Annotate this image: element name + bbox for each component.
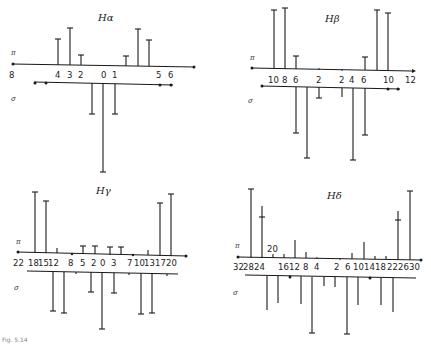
sigma-label: σ — [233, 289, 238, 297]
svg-text:8: 8 — [68, 258, 73, 268]
svg-text:1: 1 — [112, 70, 117, 80]
svg-text:0: 0 — [101, 70, 106, 80]
svg-text:3: 3 — [111, 258, 116, 268]
svg-text:4: 4 — [349, 75, 354, 85]
sigma-label: σ — [11, 95, 16, 103]
sigma-sticks — [50, 272, 167, 329]
svg-text:20: 20 — [166, 258, 177, 268]
svg-text:2: 2 — [316, 75, 321, 85]
sigma-label: σ — [14, 284, 19, 292]
panel-h-delta: Hδ π σ 32 28 24 20 16 12 8 — [233, 189, 423, 334]
zeeman-figure: .ln { stroke:#1a1a1a; stroke-width:1.1; … — [0, 0, 431, 350]
svg-text:3: 3 — [67, 70, 72, 80]
svg-text:6: 6 — [293, 75, 298, 85]
svg-text:7: 7 — [127, 258, 132, 268]
svg-text:22: 22 — [13, 258, 24, 268]
title-h-alpha: Hα — [97, 12, 114, 23]
svg-text:13: 13 — [144, 258, 155, 268]
svg-text:26: 26 — [398, 262, 409, 272]
pi-axis — [12, 64, 195, 67]
sigma-label: σ — [248, 97, 253, 105]
svg-text:6: 6 — [168, 70, 173, 80]
svg-text:8: 8 — [303, 262, 308, 272]
svg-text:12: 12 — [405, 75, 416, 85]
svg-text:2: 2 — [78, 70, 83, 80]
svg-text:0: 0 — [100, 258, 105, 268]
svg-text:8: 8 — [282, 75, 287, 85]
pi-sticks — [55, 28, 152, 66]
svg-text:5: 5 — [80, 258, 85, 268]
svg-text:6: 6 — [345, 262, 350, 272]
title-h-beta: Hβ — [324, 13, 340, 24]
pi-axis-labels: 8 4 3 2 0 1 5 6 — [9, 70, 173, 80]
sigma-axis — [261, 86, 400, 89]
title-h-gamma: Hγ — [95, 185, 111, 196]
svg-text:5: 5 — [156, 70, 161, 80]
svg-text:17: 17 — [155, 258, 166, 268]
svg-text:12: 12 — [48, 258, 59, 268]
svg-text:24: 24 — [254, 262, 265, 272]
pi-axis-labels: 10 8 6 2 2 4 6 10 12 — [268, 75, 416, 85]
svg-text:14: 14 — [364, 262, 375, 272]
svg-text:10: 10 — [383, 75, 394, 85]
sigma-axis — [245, 275, 416, 278]
svg-text:22: 22 — [387, 262, 398, 272]
pi-label: π — [249, 54, 255, 62]
svg-text:2: 2 — [334, 262, 339, 272]
figure-caption: Fig. 5.14 — [2, 336, 28, 343]
title-h-delta: Hδ — [326, 190, 342, 201]
sigma-sticks — [267, 276, 393, 334]
sigma-sticks — [293, 87, 368, 160]
svg-text:20: 20 — [267, 244, 278, 254]
svg-text:2: 2 — [91, 258, 96, 268]
svg-text:28: 28 — [243, 262, 254, 272]
svg-text:10: 10 — [268, 75, 279, 85]
panel-h-gamma: Hγ π σ 22 18 15 12 8 5 2 0 3 — [13, 185, 188, 329]
pi-label: π — [234, 242, 240, 250]
svg-text:2: 2 — [339, 75, 344, 85]
axis-end-dot — [193, 66, 196, 69]
pi-axis — [17, 252, 187, 256]
svg-text:4: 4 — [55, 70, 60, 80]
svg-text:8: 8 — [9, 70, 14, 80]
panel-h-beta: Hβ π σ 10 8 6 2 2 4 6 10 12 — [248, 8, 416, 160]
svg-text:6: 6 — [361, 75, 366, 85]
panel-h-alpha: Hα π σ 8 4 3 2 0 1 5 6 — [9, 12, 196, 172]
svg-text:30: 30 — [409, 262, 420, 272]
svg-text:16: 16 — [278, 262, 289, 272]
svg-text:10: 10 — [353, 262, 364, 272]
svg-text:4: 4 — [314, 262, 319, 272]
pi-axis — [237, 257, 422, 260]
pi-sticks — [32, 192, 174, 256]
svg-text:18: 18 — [375, 262, 386, 272]
svg-text:12: 12 — [289, 262, 300, 272]
axis-end-dot — [12, 63, 15, 66]
pi-label: π — [10, 49, 16, 57]
pi-axis-labels: 22 18 15 12 8 5 2 0 3 7 10 13 17 20 — [13, 258, 177, 268]
sigma-sticks — [89, 83, 118, 172]
pi-label: π — [15, 238, 21, 246]
